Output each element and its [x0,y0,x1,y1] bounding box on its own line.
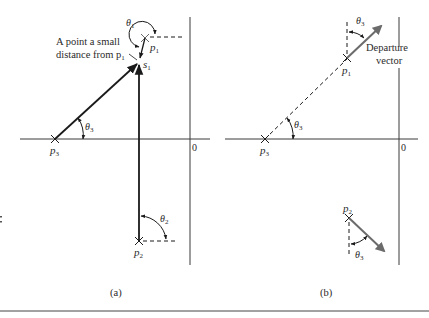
label-s1-a: s1 [143,58,151,72]
label-p3-b: p3 [259,144,270,158]
annotation-line-2: distance from p1 [56,49,125,62]
root-locus-departure-angle-figure: 0 p3 θ3 p2 θ2 p1 [0,0,429,318]
origin-label-b: 0 [401,142,406,153]
label-theta3-a: θ3 [85,121,94,134]
angle-arc-theta3-p3-b [287,118,293,139]
label-theta3-p2-b: θ3 [355,249,364,262]
departure-vector-label-1: Departure [366,42,408,53]
label-theta3-top-b: θ3 [356,15,365,28]
annotation-leader [129,54,137,60]
angle-arc-theta3-a [78,118,83,139]
departure-vector-label-2: vector [376,55,403,66]
label-theta2-a: θ2 [160,213,169,226]
dashed-line-p3-to-p1 [265,59,347,139]
label-p1-b: p1 [341,64,352,78]
vector-p3-to-s1 [55,64,137,139]
annotation-line-1: A point a small [56,36,120,47]
label-p2-a: p2 [133,246,144,260]
label-p1-a: p1 [149,41,160,55]
label-p2-b: p2 [342,202,353,216]
label-theta3-p3-b: θ3 [294,119,303,132]
angle-arc-theta3-top-b [349,32,364,38]
panel-a: 0 p3 θ3 p2 θ2 p1 [20,17,210,299]
label-p3-a: p3 [49,144,60,158]
departure-vector-p2 [349,218,384,251]
margin-mark [0,216,2,223]
caption-a: (a) [110,287,122,299]
panel-b: 0 p3 θ3 p1 θ3 Departure vector [225,15,418,299]
caption-b: (b) [320,287,333,299]
label-theta1-a: θ1 [126,17,135,30]
angle-arc-theta3-p2-b [351,236,367,244]
origin-label-a: 0 [192,142,197,153]
